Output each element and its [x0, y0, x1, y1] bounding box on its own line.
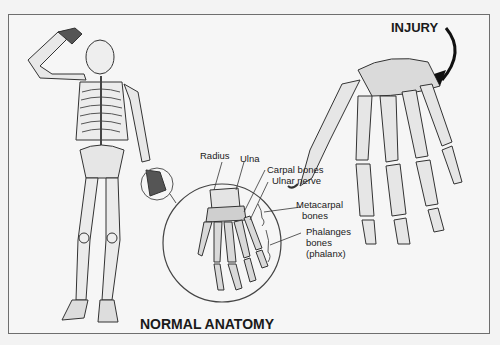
anatomy-illustration [0, 0, 500, 345]
label-ulnar-nerve: Ulnar nerve [272, 176, 321, 186]
label-phalanx: (phalanx) [306, 249, 346, 259]
label-carpal-bones: Carpal bones [267, 165, 324, 175]
injury-title: INJURY [391, 20, 438, 35]
label-metacarpal: Metacarpal [296, 200, 343, 210]
skeleton-figure [28, 28, 166, 322]
label-metacarpal-bones: bones [302, 211, 328, 221]
label-ulna: Ulna [240, 154, 260, 164]
label-radius: Radius [200, 151, 230, 161]
normal-anatomy-title: NORMAL ANATOMY [140, 316, 274, 332]
label-phalanges-bones: bones [306, 238, 332, 248]
label-phalanges: Phalanges [306, 227, 351, 237]
